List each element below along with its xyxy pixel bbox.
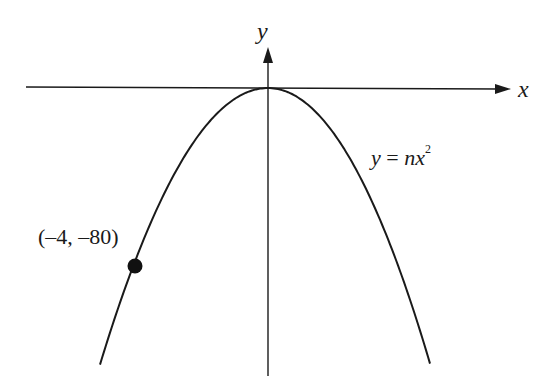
point-marker [128,259,143,274]
x-axis-arrow-icon [495,84,511,94]
equation-var: x [414,145,425,170]
equation-eq: = [381,145,404,170]
equation-exp: 2 [425,142,431,156]
y-axis-arrow-icon [263,47,273,63]
equation-coef: n [404,145,415,170]
x-axis-label: x [517,76,529,102]
equation-label: y = nx2 [369,142,431,170]
y-axis-label: y [255,18,268,44]
graph-figure: y x (–4, –80) y = nx2 [0,0,554,389]
parabola-curve [100,88,430,365]
graph-canvas: y x (–4, –80) y = nx2 [0,0,554,389]
point-label: (–4, –80) [38,224,119,249]
equation-lhs: y [369,145,381,170]
